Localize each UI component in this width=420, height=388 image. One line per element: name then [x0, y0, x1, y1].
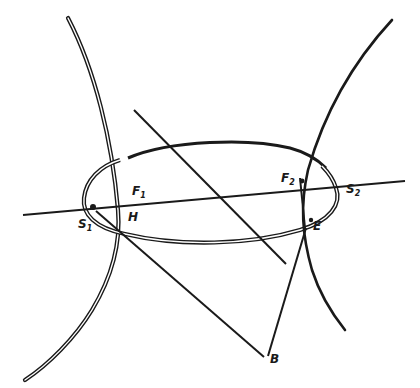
ellipse: [84, 142, 338, 243]
left-hyperbola-branch: [25, 18, 118, 380]
line-E-to-B: [268, 228, 306, 356]
right-hyperbola-branch: [303, 20, 392, 330]
label-H: H: [128, 210, 138, 224]
ellipse-back-arc: [128, 142, 326, 168]
point-S1: [90, 204, 96, 210]
point-F2: [300, 179, 305, 184]
ellipse-hyperbola-diagram: S1 F1 H F2 S2 E B: [0, 0, 420, 388]
ellipse-front-arc-inner: [84, 160, 338, 243]
line-H-to-B: [96, 211, 264, 357]
label-F1: F1: [132, 184, 146, 200]
label-E: E: [313, 219, 322, 233]
label-B: B: [270, 352, 279, 366]
label-F2: F2: [281, 171, 295, 187]
